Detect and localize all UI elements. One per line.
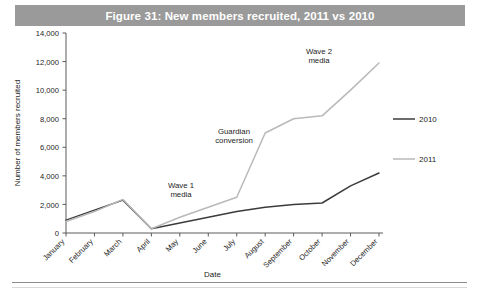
legend-label-2010: 2010	[419, 115, 437, 124]
figure-title: Figure 31: New members recruited, 2011 v…	[105, 10, 374, 22]
y-tick-label: 8,000	[40, 115, 59, 124]
y-tick-label: 14,000	[36, 29, 59, 38]
x-tick-label: March	[102, 237, 123, 258]
annotation-2-line2: conversion	[215, 136, 253, 145]
x-tick-label: January	[41, 237, 67, 263]
annotation-1-line2: media	[170, 190, 192, 199]
y-tick-label: 2,000	[40, 201, 59, 210]
x-tick-label: June	[191, 237, 209, 255]
y-tick-label: 6,000	[40, 143, 59, 152]
line-chart: 02,0004,0006,0008,00010,00012,00014,000N…	[0, 26, 479, 282]
x-tick-label: July	[221, 237, 237, 253]
x-tick-label: November	[320, 237, 351, 268]
figure-title-bar: Figure 31: New members recruited, 2011 v…	[15, 5, 465, 26]
x-tick-label: April	[135, 237, 152, 254]
y-tick-label: 4,000	[40, 172, 59, 181]
x-tick-label: September	[261, 237, 294, 270]
x-tick-label: August	[243, 236, 267, 260]
x-tick-label: October	[297, 237, 323, 263]
annotation-1-line1: Wave 1	[168, 181, 194, 190]
chart-figure: 02,0004,0006,0008,00010,00012,00014,000N…	[0, 26, 479, 282]
x-axis-label: Date	[204, 270, 221, 279]
y-tick-label: 0	[55, 229, 59, 238]
legend-label-2011: 2011	[419, 155, 437, 164]
annotation-3-line1: Wave 2	[306, 47, 332, 56]
series-line-2011	[66, 63, 379, 229]
y-axis-label: Number of members recruited	[13, 80, 22, 186]
annotation-3-line2: media	[308, 56, 330, 65]
series-line-2010	[66, 173, 379, 229]
x-tick-label: February	[67, 237, 95, 265]
x-tick-label: May	[164, 237, 181, 254]
y-tick-label: 12,000	[36, 58, 59, 67]
y-tick-label: 10,000	[36, 86, 59, 95]
figure-panel: Figure 31: New members recruited, 2011 v…	[0, 0, 479, 300]
x-tick-label: December	[348, 237, 379, 268]
annotation-2-line1: Guardian	[218, 127, 250, 136]
footer-divider-shadow	[12, 287, 467, 288]
footer-divider	[12, 282, 467, 283]
